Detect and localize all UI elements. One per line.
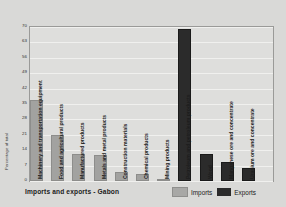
bar-slot[interactable]: Mining products [157,27,170,181]
category-label: Machinery and transportation equipment [38,80,43,179]
bar-slot[interactable]: Chemical products [136,27,149,181]
category-label: Uranium ore and concentrate [250,108,255,179]
y-axis-ticks: 70635649423528211470 [0,26,27,182]
legend-swatch-imports [172,187,188,197]
y-axis-tick-label: 70 [3,24,27,28]
bar-slot[interactable]: Food and agricultural products [51,27,64,181]
bar-slot[interactable]: Manganese ore and concentrate [221,27,234,181]
category-label: Chemical products [144,133,149,179]
y-axis-tick-label: 21 [3,132,27,136]
category-label: Manufactured products [80,122,85,179]
y-axis-tick-label: 63 [3,39,27,43]
bar-series-group: Machinery and transportation equipmentFo… [30,27,273,181]
legend-label-imports: Imports [191,189,212,196]
y-axis-tick-label: 0 [3,178,27,182]
category-label: Construction materials [123,124,128,179]
bar-slot[interactable]: Manufactured products [72,27,85,181]
legend-swatch-exports [217,188,231,196]
bar-slot[interactable]: Machinery and transportation equipment [30,27,43,181]
legend-item-imports[interactable]: Imports [172,187,212,197]
y-axis-tick-label: 49 [3,70,27,74]
y-axis-tick-label: 56 [3,55,27,59]
legend-item-exports[interactable]: Exports [217,188,256,196]
bar-slot[interactable]: Construction materials [115,27,128,181]
bar-chart-figure: Percentage of total 70635649423528211470… [0,0,286,207]
bar-slot[interactable]: Wood [200,27,213,181]
bar-slot[interactable]: Petroleum and petroleum products [178,27,191,181]
y-axis-tick-label: 35 [3,101,27,105]
category-label: Metals and metal products [102,115,107,179]
y-axis-tick-label: 7 [3,163,27,167]
bar[interactable] [157,179,170,181]
gridline [30,181,273,182]
y-axis-tick-label: 42 [3,86,27,90]
legend: Imports Exports [172,187,256,197]
bar-slot[interactable]: Metals and metal products [94,27,107,181]
chart-title: Imports and exports - Gabon [25,188,119,195]
bar-slot[interactable]: Uranium ore and concentrate [242,27,255,181]
legend-label-exports: Exports [234,189,256,196]
y-axis-tick-label: 28 [3,116,27,120]
category-label: Petroleum and petroleum products [186,94,191,179]
category-label: Mining products [165,139,170,179]
category-label: Wood [208,165,213,179]
category-label: Food and agricultural products [59,104,64,179]
category-label: Manganese ore and concentrate [229,101,234,179]
y-axis-tick-label: 14 [3,147,27,151]
